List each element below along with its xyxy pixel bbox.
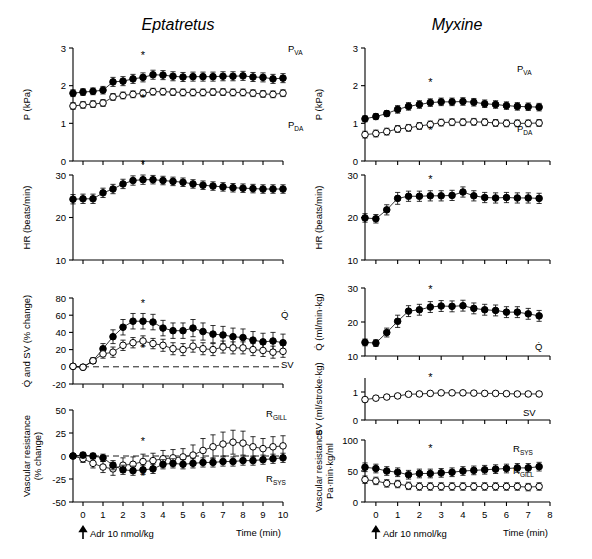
data-point-HR: [438, 193, 445, 200]
data-point-P_VA: [140, 74, 147, 81]
data-point-HR: [110, 186, 117, 193]
data-point-Q: [140, 318, 147, 325]
data-point-SV: [110, 349, 117, 356]
data-point-R_GILL: [200, 447, 207, 454]
y-tick-label: 0: [61, 361, 66, 372]
y-axis-title-myxine-resistance: Vascular resistance: [313, 430, 324, 512]
data-point-Q: [536, 313, 543, 320]
data-point-SV: [492, 390, 499, 397]
data-point-P_VA: [180, 74, 187, 81]
data-point-R_GILL: [270, 444, 277, 451]
series-Q: [362, 300, 543, 346]
series-label-SV: SV: [523, 407, 536, 418]
y-tick-label: 20: [347, 212, 358, 223]
data-point-R_GILL: [210, 444, 217, 451]
data-point-P_DA: [120, 92, 127, 99]
data-point-P_DA: [250, 90, 257, 97]
data-point-R_SYS: [120, 467, 127, 474]
data-point-R_SYS: [80, 452, 87, 459]
data-point-SV: [280, 348, 287, 355]
y-tick-label: -25: [52, 474, 66, 485]
data-point-P_VA: [120, 78, 127, 85]
data-point-HR: [394, 195, 401, 202]
significance-star: *: [428, 173, 433, 185]
y-tick-label: 80: [55, 293, 66, 304]
x-tick-label: 6: [504, 509, 509, 520]
data-point-R_GILL: [383, 480, 390, 487]
data-point-Q: [210, 331, 217, 338]
data-point-R_SYS: [503, 465, 510, 472]
series-SV: [362, 390, 543, 403]
x-tick-label: 2: [120, 509, 125, 520]
y-axis-title-myxine-resistance: Pa·min·kg/ml: [324, 443, 335, 499]
data-point-R_SYS: [405, 471, 412, 478]
data-point-R_SYS: [110, 462, 117, 469]
panel-eptatretus-q-sv: -20020406080Q̇SV**: [52, 293, 294, 390]
data-point-Q: [362, 339, 369, 346]
data-point-HR: [90, 196, 97, 203]
y-tick-label: 0: [353, 497, 358, 508]
data-point-P_DA: [220, 89, 227, 96]
data-point-HR: [200, 182, 207, 189]
dose-caption: Adr 10 nmol/kg: [90, 528, 154, 539]
x-tick-label: 8: [240, 509, 245, 520]
data-point-Q: [373, 340, 380, 347]
data-point-SV: [383, 394, 390, 401]
data-point-SV: [270, 349, 277, 356]
series-P_DA: [362, 118, 543, 138]
data-point-SV: [90, 357, 97, 364]
data-point-R_SYS: [280, 455, 287, 462]
series-HR: [362, 187, 543, 223]
data-point-P_VA: [210, 73, 217, 80]
figure-svg: EptatretusMyxine0123PVAPDA**102030*-2002…: [0, 0, 592, 559]
data-point-Q: [416, 306, 423, 313]
x-tick-label: 5: [482, 509, 487, 520]
y-tick-label: 3: [61, 43, 66, 54]
data-point-SV: [210, 346, 217, 353]
data-point-P_DA: [200, 89, 207, 96]
data-point-HR: [471, 193, 478, 200]
data-point-HR: [120, 181, 127, 188]
data-point-P_DA: [525, 120, 532, 127]
data-point-R_SYS: [373, 465, 380, 472]
data-point-HR: [130, 177, 137, 184]
data-point-Q: [200, 328, 207, 335]
axis-spines: [365, 175, 550, 260]
figure-canvas: EptatretusMyxine0123PVAPDA**102030*-2002…: [0, 0, 592, 559]
data-point-R_SYS: [438, 470, 445, 477]
data-point-P_DA: [481, 119, 488, 126]
dose-arrow-icon: [80, 527, 86, 540]
y-tick-label: 30: [347, 283, 358, 294]
data-point-SV: [438, 390, 445, 397]
data-point-R_GILL: [405, 483, 412, 490]
data-point-Q: [220, 332, 227, 339]
data-point-HR: [80, 196, 87, 203]
panel-eptatretus-hr: 102030*: [55, 158, 286, 265]
data-point-Q: [471, 305, 478, 312]
data-point-Q: [120, 324, 127, 331]
panel-myxine-sv: 01SV*: [353, 371, 550, 425]
data-point-P_VA: [110, 79, 117, 86]
data-point-HR: [525, 195, 532, 202]
series-R_GILL: [70, 430, 287, 475]
data-point-HR: [260, 186, 267, 193]
y-tick-label: 30: [55, 170, 66, 181]
y-tick-label: 25: [55, 428, 66, 439]
data-point-HR: [210, 183, 217, 190]
data-point-P_DA: [190, 89, 197, 96]
x-tick-label: 0: [373, 509, 378, 520]
data-point-SV: [80, 364, 87, 371]
x-tick-label: 4: [460, 509, 465, 520]
data-point-R_SYS: [536, 463, 543, 470]
data-point-R_SYS: [492, 466, 499, 473]
data-point-Q: [460, 302, 467, 309]
data-point-R_SYS: [190, 460, 197, 467]
data-point-R_SYS: [100, 455, 107, 462]
data-point-Q: [394, 318, 401, 325]
data-point-P_VA: [460, 98, 467, 105]
x-tick-label: 1: [395, 509, 400, 520]
y-tick-label: 1: [353, 118, 358, 129]
x-tick-label: 3: [439, 509, 444, 520]
series-label-P_VA: PVA: [288, 43, 303, 56]
data-point-P_DA: [536, 120, 543, 127]
